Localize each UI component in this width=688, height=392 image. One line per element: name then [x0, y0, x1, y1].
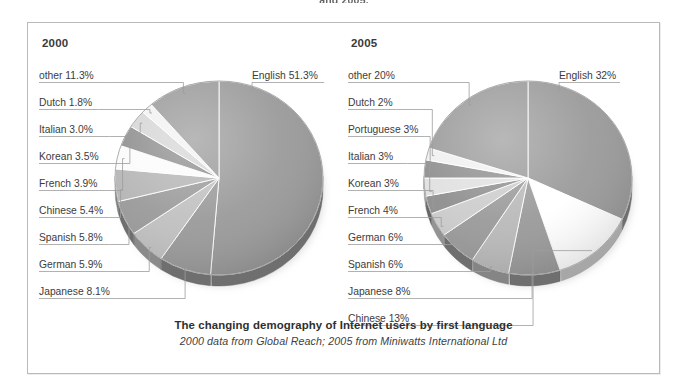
- pie-label: Dutch 1.8%: [39, 97, 92, 108]
- pie-label: Portuguese 3%: [348, 124, 418, 135]
- leader-line: [39, 110, 152, 114]
- pie-label: Japanese 8%: [348, 286, 410, 297]
- pie-label: Korean 3%: [348, 178, 399, 189]
- pie-label: French 3.9%: [39, 178, 97, 189]
- pie-label: French 4%: [348, 205, 398, 216]
- pie-label: Korean 3.5%: [39, 151, 99, 162]
- pie-label: Spanish 6%: [348, 259, 403, 270]
- pie-label: Italian 3.0%: [39, 124, 93, 135]
- pie-label: Japanese 8.1%: [39, 286, 110, 297]
- pie-label: Italian 3%: [348, 151, 393, 162]
- pie-label: Dutch 2%: [348, 97, 393, 108]
- panel-2005: 2005 other 20%Dutch 2%Portuguese 3%Itali…: [337, 23, 653, 313]
- leader-line: [252, 83, 324, 91]
- leader-line: [39, 83, 185, 94]
- clipped-heading: and 2005.: [0, 0, 688, 3]
- pie-slice: [211, 81, 323, 275]
- caption-title: The changing demography of Internet user…: [28, 319, 659, 331]
- pie-label-primary: English 51.3%: [252, 70, 318, 81]
- pie-label: Chinese 5.4%: [39, 205, 103, 216]
- figure-root: and 2005. 2000 other 11.3%Dutch 1.8%Ital…: [0, 0, 688, 392]
- caption: The changing demography of Internet user…: [28, 319, 659, 347]
- pie-label: other 20%: [348, 70, 395, 81]
- caption-subtitle: 2000 data from Global Reach; 2005 from M…: [28, 335, 659, 347]
- pie-label: Spanish 5.8%: [39, 232, 103, 243]
- pie-label-primary: English 32%: [559, 70, 616, 81]
- pie-label: German 5.9%: [39, 259, 103, 270]
- panel-2000: 2000 other 11.3%Dutch 1.8%Italian 3.0%Ko…: [28, 23, 344, 313]
- pie-label: German 6%: [348, 232, 403, 243]
- figure-frame: 2000 other 11.3%Dutch 1.8%Italian 3.0%Ko…: [27, 22, 660, 374]
- pie-label: other 11.3%: [39, 70, 94, 81]
